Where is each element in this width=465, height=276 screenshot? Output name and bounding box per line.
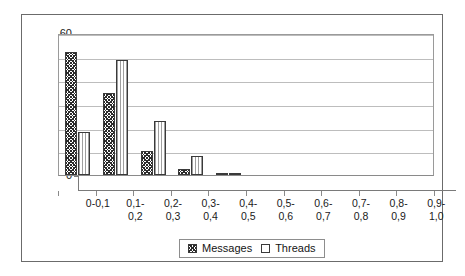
legend-label-threads: Threads: [275, 243, 315, 254]
x-axis-tick: [58, 191, 59, 196]
bar-group: [366, 35, 391, 175]
x-axis-category-label: 0,8- 0,9: [380, 197, 418, 223]
x-axis-category-label: 0,9- 1,0: [417, 197, 455, 223]
x-axis-category-label: 0,3- 0,4: [192, 197, 230, 223]
x-axis-category-label: 0,4- 0,5: [229, 197, 267, 223]
legend-swatch-messages-icon: [188, 244, 197, 253]
legend-entry-threads: Threads: [261, 243, 315, 254]
bar-threads: [191, 156, 203, 175]
x-axis-tick: [359, 191, 360, 196]
x-axis-labels: 0-0,10,1- 0,20,2- 0,30,3- 0,40,4- 0,50,5…: [79, 197, 455, 239]
x-axis-tick: [396, 191, 397, 196]
legend-entry-messages: Messages: [188, 243, 252, 254]
bar-group: [329, 35, 354, 175]
bar-messages: [216, 173, 228, 175]
x-axis-tick: [171, 191, 172, 196]
bar-threads: [229, 173, 241, 175]
x-axis-tick: [208, 191, 209, 196]
x-axis-category-label: 0,6- 0,7: [305, 197, 343, 223]
bar-group: [253, 35, 278, 175]
bar-threads: [154, 121, 166, 175]
x-axis-tick: [284, 191, 285, 196]
x-axis-tick: [321, 191, 322, 196]
x-axis-tick: [96, 191, 97, 196]
bar-group: [404, 35, 429, 175]
chart-frame: 0102030405060 0-0,10,1- 0,20,2- 0,30,3- …: [21, 14, 443, 262]
x-axis-category-label: 0,2- 0,3: [154, 197, 192, 223]
bar-group: [178, 35, 203, 175]
legend-swatch-threads-icon: [261, 244, 270, 253]
x-axis-tick: [246, 191, 247, 196]
bar-messages: [141, 151, 153, 175]
x-axis-category-label: 0,7- 0,8: [342, 197, 380, 223]
x-axis-category-label: 0,1- 0,2: [117, 197, 155, 223]
plot-area: [58, 34, 434, 176]
bar-messages: [65, 52, 77, 175]
y-axis-tick: [74, 176, 79, 177]
bar-threads: [116, 60, 128, 175]
chart-legend: Messages Threads: [179, 239, 325, 258]
x-axis-tick: [434, 191, 435, 196]
x-axis-line: [78, 190, 456, 191]
bar-messages: [103, 93, 115, 175]
bar-group: [216, 35, 241, 175]
x-axis-category-label: 0,5- 0,6: [267, 197, 305, 223]
x-axis-tick: [133, 191, 134, 196]
bar-group: [141, 35, 166, 175]
bar-group: [103, 35, 128, 175]
bar-group: [65, 35, 90, 175]
x-axis-category-label: 0-0,1: [79, 197, 117, 210]
bar-threads: [78, 132, 90, 175]
legend-label-messages: Messages: [202, 243, 252, 254]
bar-messages: [178, 169, 190, 175]
bar-group: [291, 35, 316, 175]
